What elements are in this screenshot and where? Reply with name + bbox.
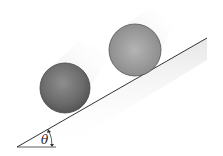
incline-diagram: θ [0, 0, 223, 156]
angle-label: θ [41, 133, 49, 147]
sphere [40, 63, 90, 113]
disc [109, 24, 161, 76]
